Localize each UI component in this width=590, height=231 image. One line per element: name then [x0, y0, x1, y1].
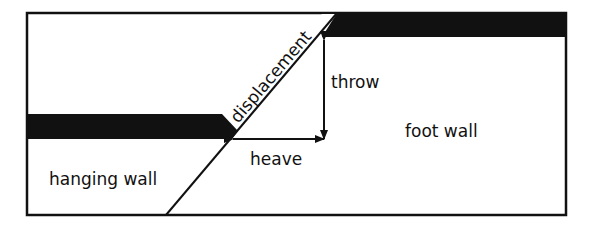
throw-label: throw [331, 72, 379, 92]
heave-label: heave [250, 149, 302, 169]
displacement-label: displacement [226, 26, 316, 126]
hanging-wall-label: hanging wall [49, 169, 157, 189]
foot-wall-label: foot wall [405, 121, 478, 141]
foot-wall-bed [322, 13, 566, 37]
hanging-wall-bed [27, 114, 238, 139]
fault-diagram: displacement throw heave foot wall hangi… [0, 0, 590, 231]
